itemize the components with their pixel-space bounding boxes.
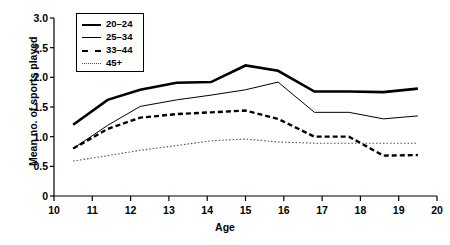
x-axis-tick-label: 20 [417,205,450,216]
y-axis-title: Mean no. of sports played [28,26,39,176]
chart-series-group [73,65,418,161]
x-axis-tick-label: 15 [226,205,266,216]
legend-line-swatch-icon [82,58,101,68]
x-axis-tick-label: 10 [34,205,74,216]
legend-item-label: 33–44 [106,45,132,55]
x-axis-tick-label: 19 [379,205,419,216]
y-axis-tick-label: 0 [4,191,48,202]
legend-line-swatch-icon [82,19,101,29]
x-axis-tick-label: 18 [340,205,380,216]
legend-item-label: 20–24 [106,19,132,29]
chart-line-33-44 [73,111,418,156]
x-axis-tick-label: 12 [111,205,151,216]
y-axis-tick-label: 3.0 [4,13,48,24]
legend-line-swatch-icon [82,32,101,42]
x-axis-tick-label: 11 [72,205,112,216]
x-axis-title: Age [0,222,450,233]
chart-line-45+ [73,139,418,161]
legend-item[interactable]: 25–34 [82,31,143,43]
x-axis-tick-label: 13 [149,205,189,216]
chart-legend: 20–2425–3433–4445+ [76,13,144,72]
legend-item[interactable]: 33–44 [82,44,143,56]
x-axis-tick-label: 14 [187,205,227,216]
legend-line-swatch-icon [82,45,101,55]
chart-container: 00.51.01.52.02.53.0 10111213141516171819… [0,0,450,245]
legend-item[interactable]: 20–24 [82,18,143,30]
x-axis-tick-label: 16 [264,205,304,216]
legend-item[interactable]: 45+ [82,57,143,69]
legend-item-label: 45+ [106,58,122,68]
legend-item-label: 25–34 [106,32,132,42]
x-axis-tick-label: 17 [302,205,342,216]
